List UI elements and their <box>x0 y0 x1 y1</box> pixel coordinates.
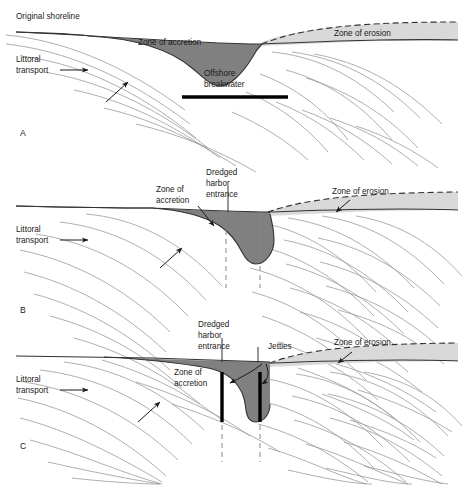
panel-c-zone-of-erosion-label: Zone of erosion <box>334 338 391 347</box>
panel-a-breakwater-label-l1: Offshore <box>204 69 236 78</box>
panel-a-zone-of-erosion-label: Zone of erosion <box>334 29 391 38</box>
panel-c-littoral-transport-label-l1: Littoral <box>16 375 41 384</box>
panel-c-zone-of-accretion-label-l2: accretion <box>174 379 208 388</box>
coastal-processes-diagram: Original shoreline Littoral transport Zo… <box>0 0 466 485</box>
panel-a-zone-of-accretion-label: Zone of accretion <box>138 38 202 47</box>
panel-a-original-shoreline-label: Original shoreline <box>16 12 80 21</box>
panel-a-letter: A <box>20 128 26 138</box>
panel-c-littoral-transport-label-l2: transport <box>16 386 49 395</box>
panel-c-zone-of-accretion-label-l1: Zone of <box>174 368 202 377</box>
panel-b-entrance-label-l1: Dredged <box>206 168 238 177</box>
panel-b-littoral-transport-label-l2: transport <box>16 236 49 245</box>
panel-c-letter: C <box>20 441 26 451</box>
panel-b-zone-of-accretion-label-l1: Zone of <box>156 185 184 194</box>
panel-a-littoral-transport-label-l2: transport <box>16 66 49 75</box>
panel-b-entrance-label-l2: harbor <box>206 179 230 188</box>
panel-c-jetties-label: Jetties <box>268 342 292 351</box>
panel-b-littoral-transport-label-l1: Littoral <box>16 225 41 234</box>
panel-b-zone-of-erosion-label: Zone of erosion <box>332 187 389 196</box>
panel-c-entrance-label-l3: entrance <box>198 342 230 351</box>
panel-a-littoral-transport-label-l1: Littoral <box>16 55 41 64</box>
panel-c-entrance-label-l2: harbor <box>198 331 222 340</box>
panel-c-entrance-label-l1: Dredged <box>198 320 230 329</box>
panel-b-letter: B <box>20 305 26 315</box>
panel-b-zone-of-accretion-label-l2: accretion <box>156 196 190 205</box>
panel-a-breakwater-label-l2: breakwater <box>204 80 245 89</box>
panel-b-entrance-label-l3: entrance <box>206 190 238 199</box>
